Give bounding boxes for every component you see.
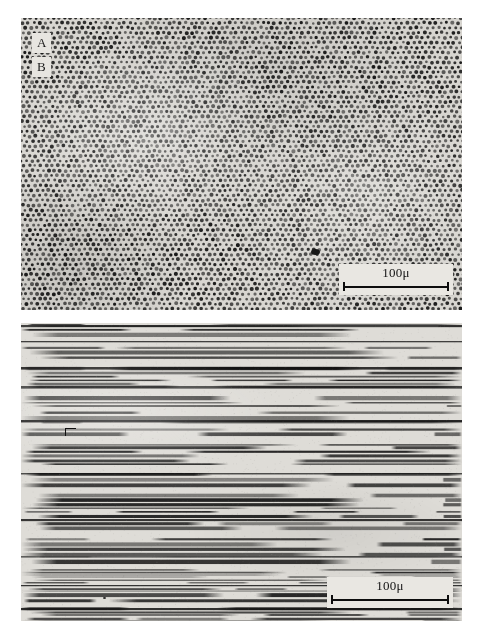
dark-blob-artifact-panel-a [311,249,320,255]
hook-bracket-artifact-panel-b [65,428,76,436]
panel-label-a: A [32,33,51,53]
scale-bar-label-a: 100μ [382,265,410,280]
speck-artifact-panel-a [128,297,130,301]
scale-bar-right-tick-b [447,595,449,604]
figure-root: A 100μ B 100μ [0,0,478,633]
scale-bar-rule-b [331,595,449,604]
scale-bar-rule-a [343,282,449,291]
panel-label-b: B [32,57,51,77]
scale-bar-line-b [331,599,449,601]
speck-artifact-panel-b [103,597,106,599]
scale-bar-label-b: 100μ [376,578,404,593]
scale-bar-panel-a: 100μ [339,264,453,295]
scale-bar-right-tick-a [447,282,449,291]
scale-bar-line-a [343,286,449,288]
scale-bar-panel-b: 100μ [327,577,453,608]
